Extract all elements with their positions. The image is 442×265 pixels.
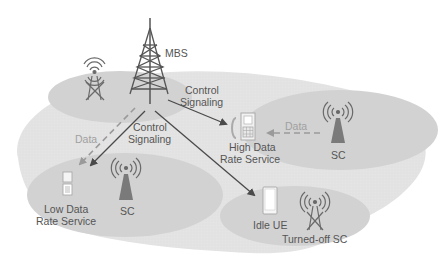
sc-right-label: SC bbox=[331, 149, 346, 161]
high-data-label-1: High Data bbox=[229, 141, 276, 153]
turned-off-sc-label: Turned-off SC bbox=[282, 233, 347, 245]
control-signaling-top-label-1: Control bbox=[185, 84, 219, 96]
control-signaling-top-label-2: Signaling bbox=[180, 96, 223, 108]
sc-left-label: SC bbox=[120, 205, 135, 217]
cell-area-top-left bbox=[48, 71, 192, 123]
low-data-label-2: Rate Service bbox=[36, 215, 96, 227]
high-data-label-2: Rate Service bbox=[220, 153, 280, 165]
control-signaling-mid-label-2: Signaling bbox=[128, 133, 171, 145]
ue-idle-icon bbox=[263, 187, 277, 214]
mbs-label: MBS bbox=[165, 47, 188, 59]
control-signaling-mid-label-1: Control bbox=[133, 121, 167, 133]
data-label-left: Data bbox=[75, 133, 97, 145]
idle-ue-label: Idle UE bbox=[253, 219, 287, 231]
low-data-label-1: Low Data bbox=[44, 203, 88, 215]
data-label-right: Data bbox=[285, 120, 307, 132]
